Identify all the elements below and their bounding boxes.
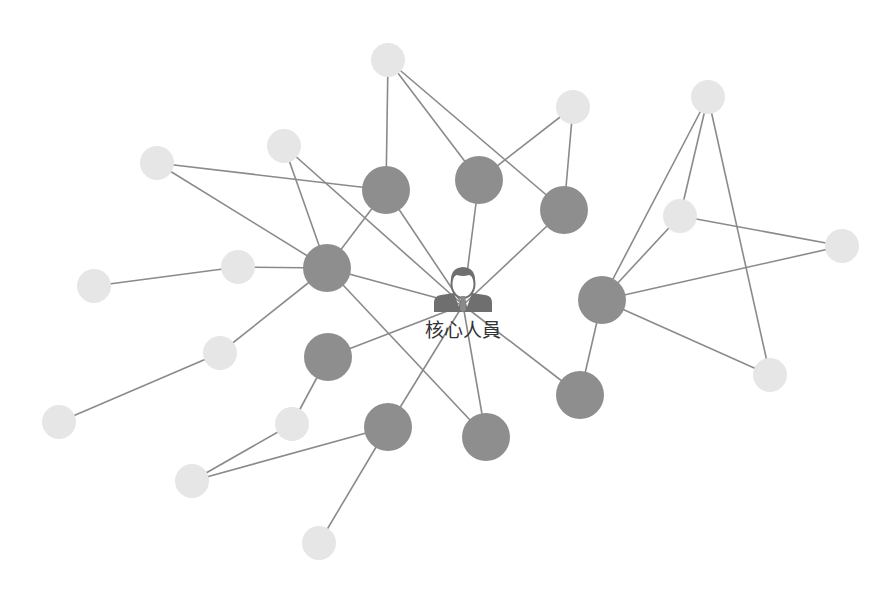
peripheral-node-L5 <box>221 250 255 284</box>
edge-L12-L13 <box>680 97 708 216</box>
core-person: 核心人員 <box>425 267 501 341</box>
edge-D5-L15 <box>602 300 770 375</box>
peripheral-node-L10 <box>175 464 209 498</box>
edge-L12-L15 <box>708 97 770 375</box>
edge-L4-D1 <box>157 163 386 190</box>
core-node-D8 <box>462 413 510 461</box>
center-label: 核心人員 <box>425 319 501 341</box>
peripheral-node-L9 <box>275 407 309 441</box>
peripheral-node-L2 <box>556 90 590 124</box>
peripheral-node-L8 <box>42 405 76 439</box>
core-node-D4 <box>303 244 351 292</box>
edge-D5-L14 <box>602 246 842 300</box>
peripheral-node-L14 <box>825 229 859 263</box>
peripheral-node-L1 <box>371 43 405 77</box>
edge-L13-L14 <box>680 216 842 246</box>
network-diagram: 核心人員 <box>0 0 891 594</box>
core-node-D1 <box>362 166 410 214</box>
peripheral-node-L12 <box>691 80 725 114</box>
peripheral-node-L3 <box>267 129 301 163</box>
edge-L6-L5 <box>94 267 238 286</box>
core-node-D3 <box>540 186 588 234</box>
edge-L7-L8 <box>59 353 220 422</box>
edge-D5-L12 <box>602 97 708 300</box>
peripheral-node-L13 <box>663 199 697 233</box>
core-node-D7 <box>364 403 412 451</box>
core-node-D6 <box>304 333 352 381</box>
core-node-D9 <box>556 371 604 419</box>
core-node-D5 <box>578 276 626 324</box>
peripheral-node-L6 <box>77 269 111 303</box>
peripheral-node-L7 <box>203 336 237 370</box>
peripheral-node-L4 <box>140 146 174 180</box>
peripheral-node-L11 <box>302 526 336 560</box>
core-node-D2 <box>455 156 503 204</box>
peripheral-node-L15 <box>753 358 787 392</box>
edge-L9-L10 <box>192 424 292 481</box>
